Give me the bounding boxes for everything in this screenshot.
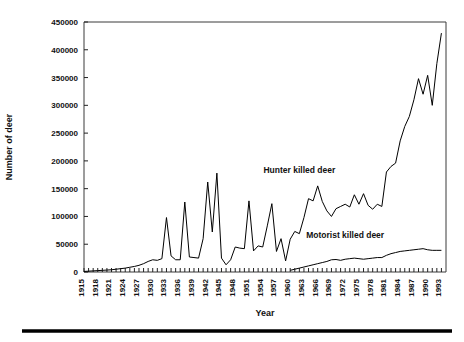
x-tick-label: 1945: [214, 278, 223, 296]
x-tick-label: 1987: [407, 278, 416, 296]
x-tick-label: 1963: [297, 278, 306, 296]
x-tick-label: 1948: [228, 278, 237, 296]
y-tick-label: 400000: [51, 46, 78, 55]
x-tick-label: 1975: [352, 278, 361, 296]
series-label-motorist-killed-deer: Motorist killed deer: [306, 230, 385, 240]
y-tick-label: 350000: [51, 74, 78, 83]
x-tick-label: 1966: [311, 278, 320, 296]
x-tick-label: 1954: [256, 278, 265, 296]
x-tick-label: 1960: [283, 278, 292, 296]
series-line-hunter-killed-deer: [84, 33, 441, 271]
y-tick-label: 300000: [51, 101, 78, 110]
deer-mortality-line-chart: 0500001000001500002000002500003000003500…: [0, 0, 464, 342]
y-tick-label: 150000: [51, 185, 78, 194]
x-tick-label: 1972: [338, 278, 347, 296]
y-tick-label: 50000: [56, 240, 79, 249]
y-tick-label: 0: [74, 268, 79, 277]
x-tick-label: 1990: [421, 278, 430, 296]
y-tick-label: 250000: [51, 129, 78, 138]
x-tick-label: 1924: [118, 278, 127, 296]
x-axis-title: Year: [255, 308, 275, 318]
x-tick-label: 1984: [393, 278, 402, 296]
x-tick-label: 1936: [173, 278, 182, 296]
series-line-motorist-killed-deer: [290, 249, 441, 271]
x-tick-label: 1942: [201, 278, 210, 296]
y-axis-title: Number of deer: [4, 113, 14, 180]
y-tick-label: 200000: [51, 157, 78, 166]
x-tick-label: 1927: [132, 278, 141, 296]
series-label-hunter-killed-deer: Hunter killed deer: [263, 165, 335, 175]
x-tick-label: 1993: [434, 278, 443, 296]
x-tick-label: 1930: [146, 278, 155, 296]
x-tick-label: 1915: [77, 278, 86, 296]
x-tick-label: 1939: [187, 278, 196, 296]
x-tick-label: 1981: [379, 278, 388, 296]
x-tick-label: 1969: [324, 278, 333, 296]
y-tick-label: 450000: [51, 18, 78, 27]
x-tick-label: 1918: [91, 278, 100, 296]
y-axis: 0500001000001500002000002500003000003500…: [51, 18, 88, 277]
x-tick-label: 1921: [104, 278, 113, 296]
y-tick-label: 100000: [51, 212, 78, 221]
x-tick-label: 1978: [366, 278, 375, 296]
x-tick-label: 1957: [269, 278, 278, 296]
x-tick-label: 1951: [242, 278, 251, 296]
x-tick-label: 1933: [159, 278, 168, 296]
